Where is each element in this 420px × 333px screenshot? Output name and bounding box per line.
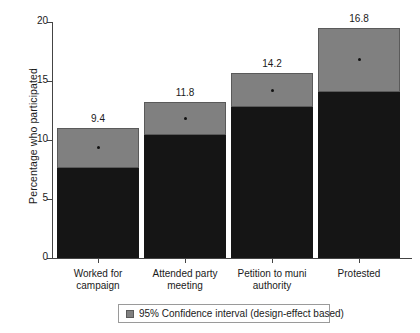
legend-swatch-ci (126, 310, 134, 318)
point-estimate-marker (358, 58, 361, 61)
bar-value-label: 11.8 (144, 87, 226, 98)
point-estimate-marker (97, 146, 100, 149)
bar (144, 135, 226, 258)
y-tick-label: 10 (37, 133, 48, 144)
legend-label-ci: 95% Confidence interval (design-effect b… (139, 308, 344, 319)
plot-area: 05101520 9.411.814.216.8 Worked for camp… (52, 18, 414, 262)
bar-value-label: 9.4 (57, 113, 139, 124)
y-tick-label: 15 (37, 74, 48, 85)
bar (318, 92, 400, 258)
x-tick-mark (272, 258, 273, 263)
legend: 95% Confidence interval (design-effect b… (118, 304, 330, 323)
point-estimate-marker (271, 89, 274, 92)
bar (231, 107, 313, 258)
y-tick-label: 5 (42, 192, 48, 203)
bar-value-label: 16.8 (318, 13, 400, 24)
y-tick-label: 0 (42, 251, 48, 262)
bar-value-label: 14.2 (231, 58, 313, 69)
x-axis-category-label: Worked for campaign (55, 268, 142, 292)
x-axis-line (52, 258, 412, 259)
point-estimate-marker (184, 117, 187, 120)
x-axis-category-label: Attended party meeting (142, 268, 229, 292)
bar (57, 168, 139, 258)
y-tick-label: 20 (37, 15, 48, 26)
x-tick-mark (359, 258, 360, 263)
bar-chart: Percentage who participated 05101520 9.4… (0, 0, 420, 333)
x-axis-category-label: Protested (316, 268, 403, 280)
x-tick-mark (98, 258, 99, 263)
y-axis-line (52, 23, 53, 259)
x-tick-mark (185, 258, 186, 263)
x-axis-category-label: Petition to muni authority (229, 268, 316, 292)
